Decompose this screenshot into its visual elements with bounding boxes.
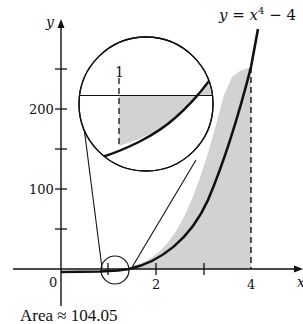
y-axis-label: y [45, 14, 55, 30]
y-tick-label-200: 200 [29, 102, 54, 117]
x-axis-label: x [297, 274, 303, 290]
curve-eq-prefix: y = x [218, 6, 259, 24]
x-tick-label-2: 2 [152, 277, 160, 292]
curve-equation-label: y = x4 − 4 [218, 5, 296, 24]
y-tick-label-100: 100 [29, 182, 54, 197]
y-axis-arrow-icon [58, 19, 65, 28]
x-axis-arrow-icon [294, 266, 303, 273]
area-caption: Area ≈ 104.05 [20, 306, 118, 324]
curve-eq-suffix: − 4 [264, 6, 296, 24]
x-tick-label-4: 4 [247, 277, 255, 292]
magnified-tick-label-1: 1 [115, 64, 124, 80]
area-under-curve-figure: y x 0 2 4 100 200 1 y = x4 − 4 [0, 0, 303, 324]
origin-label: 0 [49, 275, 57, 290]
